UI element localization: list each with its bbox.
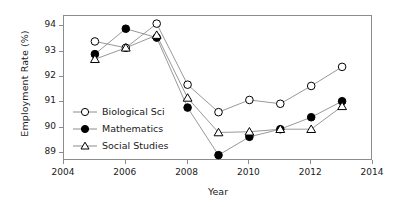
- data-point-marker: [307, 125, 316, 132]
- data-point-marker: [215, 108, 223, 116]
- legend-item: Social Studies: [72, 137, 168, 154]
- data-point-marker: [152, 31, 161, 38]
- filled-circle-marker-icon: [72, 122, 98, 136]
- employment-rate-line-chart: Employment Rate (%) Year 899091929394 20…: [0, 0, 394, 207]
- legend-item: Mathematics: [72, 120, 168, 137]
- x-axis-label: Year: [63, 186, 373, 197]
- data-point-marker: [122, 25, 130, 33]
- data-point-marker: [307, 82, 315, 90]
- y-axis-tick-label: 89: [45, 146, 56, 156]
- x-axis-tick-label: 2010: [228, 167, 268, 177]
- data-point-marker: [338, 63, 346, 71]
- chart-legend: Biological Sci Mathematics Social Studie…: [72, 103, 168, 154]
- x-axis-tick-label: 2006: [105, 167, 145, 177]
- y-axis-tick-label: 93: [45, 45, 56, 55]
- data-point-marker: [307, 113, 315, 121]
- plot-area: Biological Sci Mathematics Social Studie…: [63, 15, 372, 160]
- data-point-marker: [153, 20, 161, 28]
- data-point-marker: [246, 96, 254, 104]
- legend-label: Biological Sci: [98, 106, 165, 117]
- x-axis-tick-label: 2014: [352, 167, 392, 177]
- data-point-marker: [91, 38, 99, 46]
- legend-label: Mathematics: [98, 123, 163, 134]
- y-axis-tick-label: 92: [45, 70, 56, 80]
- open-triangle-marker-icon: [72, 139, 98, 153]
- x-axis-tick-label: 2004: [43, 167, 83, 177]
- data-point-marker: [184, 104, 192, 112]
- data-point-marker: [277, 100, 285, 108]
- x-axis-tick-label: 2008: [167, 167, 207, 177]
- legend-label: Social Studies: [98, 140, 168, 151]
- data-point-marker: [215, 151, 223, 159]
- data-point-marker: [184, 81, 192, 89]
- series-line: [95, 24, 342, 113]
- y-axis-tick-label: 90: [45, 121, 56, 131]
- y-axis-tick-label: 91: [45, 95, 56, 105]
- open-circle-marker-icon: [72, 105, 98, 119]
- y-axis-tick-label: 94: [45, 19, 56, 29]
- data-point-marker: [183, 94, 192, 101]
- y-axis-label: Employment Rate (%): [19, 14, 30, 154]
- x-axis-tick-label: 2012: [290, 167, 330, 177]
- legend-item: Biological Sci: [72, 103, 168, 120]
